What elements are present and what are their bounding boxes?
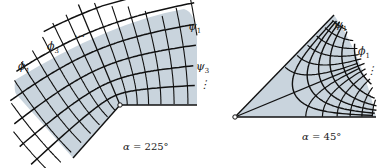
corner-point	[118, 103, 122, 107]
label-phi-ellipsis: …	[74, 27, 85, 40]
label-phi-1: ϕ1	[18, 60, 30, 75]
wedge-flow-region	[235, 15, 376, 117]
wedge-apex-point	[233, 115, 237, 119]
label-phi-1-right: ϕ1	[358, 45, 370, 60]
label-phi-3: ϕ3	[47, 40, 59, 55]
caption-alpha-45: α = 45°	[302, 131, 341, 142]
wedge-45-diagram: ψ1 ϕ1 ⋮ α = 45°	[233, 15, 377, 142]
corner-225-diagram: ϕ1 ϕ3 … ψ1 ψ3 ⋮ α = 225°	[10, 0, 210, 168]
caption-alpha-225: α = 225°	[123, 141, 169, 152]
label-phi-ellipsis-right: ⋮	[366, 64, 377, 77]
label-psi-1-right: ψ1	[334, 18, 347, 33]
label-psi-ellipsis: ⋮	[199, 78, 210, 91]
label-psi-3: ψ3	[196, 60, 209, 75]
label-psi-1: ψ1	[188, 20, 201, 35]
flow-net-figure: ϕ1 ϕ3 … ψ1 ψ3 ⋮ α = 225° ψ1 ϕ1 ⋮ α = 45°	[0, 0, 391, 168]
